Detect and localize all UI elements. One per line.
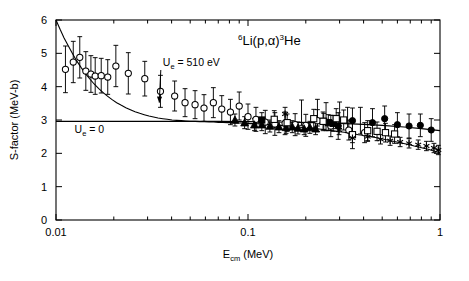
marker-open-circle	[227, 109, 233, 115]
marker-open-circle	[236, 103, 242, 109]
marker-open-square	[284, 120, 290, 126]
plot-title: 6Li(p,α)3He	[238, 33, 301, 48]
y-tick-label: 2	[41, 147, 47, 159]
y-tick-label: 3	[41, 114, 47, 126]
marker-open-square	[374, 128, 380, 134]
marker-open-square	[341, 117, 347, 123]
marker-open-square	[391, 131, 397, 137]
y-tick-label: 6	[41, 14, 47, 26]
marker-filled-circle	[428, 127, 434, 133]
s-factor-scatter-chart: 0.010.11 0123456 Ecm (MeV)S-factor (MeV-…	[0, 0, 469, 281]
chart-figure: 0.010.11 0123456 Ecm (MeV)S-factor (MeV-…	[0, 0, 469, 281]
marker-open-circle	[157, 88, 163, 94]
marker-open-circle	[245, 114, 251, 120]
y-axis-title: S-factor (MeV-b)	[8, 80, 20, 161]
marker-open-square	[333, 116, 339, 122]
marker-open-circle	[201, 105, 207, 111]
marker-open-circle	[142, 76, 148, 82]
marker-open-square	[271, 116, 277, 122]
marker-open-circle	[77, 54, 83, 60]
marker-open-square	[382, 130, 388, 136]
marker-open-circle	[172, 93, 178, 99]
marker-filled-circle	[394, 122, 400, 128]
y-tick-label: 0	[41, 214, 47, 226]
marker-open-square	[320, 118, 326, 124]
y-tick-label: 1	[41, 181, 47, 193]
marker-filled-circle	[417, 122, 423, 128]
marker-open-circle	[105, 74, 111, 80]
marker-open-square	[365, 128, 371, 134]
marker-filled-circle	[406, 123, 412, 129]
marker-filled-square	[259, 117, 265, 123]
marker-open-circle	[125, 70, 131, 76]
marker-open-circle	[182, 100, 188, 106]
y-tick-label: 5	[41, 47, 47, 59]
marker-filled-circle	[349, 118, 355, 124]
marker-filled-circle	[382, 116, 388, 122]
marker-filled-circle	[335, 123, 341, 129]
marker-open-circle	[113, 63, 119, 69]
marker-open-circle	[210, 100, 216, 106]
x-tick-label: 0.1	[240, 226, 255, 238]
x-tick-label: 1	[437, 226, 443, 238]
marker-filled-circle	[369, 120, 375, 126]
y-tick-label: 4	[41, 81, 47, 93]
marker-open-circle	[62, 66, 68, 72]
marker-open-circle	[219, 106, 225, 112]
marker-open-square	[311, 116, 317, 122]
marker-open-circle	[192, 102, 198, 108]
marker-open-circle	[92, 73, 98, 79]
marker-open-circle	[98, 73, 104, 79]
x-tick-label: 0.01	[45, 226, 66, 238]
marker-open-circle	[70, 59, 76, 65]
chart-background	[0, 0, 469, 281]
